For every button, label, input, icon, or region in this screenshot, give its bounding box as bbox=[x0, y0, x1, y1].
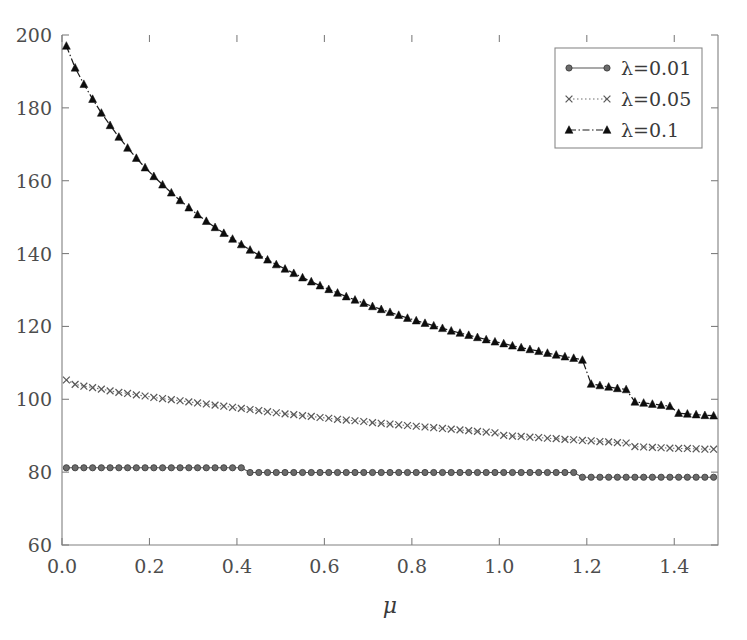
data-point-marker bbox=[474, 333, 482, 341]
data-point-marker bbox=[81, 465, 87, 471]
y-tick-label: 160 bbox=[16, 170, 52, 192]
data-point-marker bbox=[457, 469, 463, 475]
data-point-marker bbox=[107, 465, 113, 471]
data-point-marker bbox=[386, 308, 394, 316]
data-point-marker bbox=[255, 251, 263, 259]
data-point-marker bbox=[211, 223, 219, 231]
data-point-marker bbox=[431, 469, 437, 475]
data-point-marker bbox=[63, 377, 70, 384]
data-point-marker bbox=[307, 277, 315, 285]
data-point-marker bbox=[264, 469, 270, 475]
data-point-marker bbox=[518, 469, 524, 475]
data-point-marker bbox=[186, 465, 192, 471]
data-point-marker bbox=[185, 398, 192, 405]
data-point-marker bbox=[142, 393, 149, 400]
data-point-marker bbox=[185, 203, 193, 211]
data-point-marker bbox=[466, 469, 472, 475]
data-point-marker bbox=[395, 421, 402, 428]
data-point-marker bbox=[448, 469, 454, 475]
x-tick-label: 1.4 bbox=[659, 555, 689, 577]
data-point-marker bbox=[63, 465, 69, 471]
data-point-marker bbox=[632, 474, 638, 480]
data-point-marker bbox=[360, 418, 367, 425]
data-point-marker bbox=[588, 437, 595, 444]
data-point-marker bbox=[566, 65, 572, 71]
data-point-marker bbox=[125, 465, 131, 471]
data-point-marker bbox=[256, 469, 262, 475]
data-point-marker bbox=[579, 474, 585, 480]
x-tick-label: 0.2 bbox=[134, 555, 164, 577]
data-point-marker bbox=[527, 434, 534, 441]
y-tick-label: 120 bbox=[16, 315, 52, 337]
data-point-marker bbox=[308, 469, 314, 475]
data-point-marker bbox=[640, 399, 648, 407]
data-point-marker bbox=[606, 474, 612, 480]
data-point-marker bbox=[177, 465, 183, 471]
data-point-marker bbox=[317, 414, 324, 421]
data-point-marker bbox=[194, 210, 202, 218]
data-point-marker bbox=[220, 403, 227, 410]
data-point-marker bbox=[413, 469, 419, 475]
data-point-marker bbox=[536, 469, 542, 475]
legend-group: λ=0.01λ=0.05λ=0.1 bbox=[555, 48, 702, 148]
data-point-marker bbox=[571, 469, 577, 475]
data-point-marker bbox=[702, 474, 708, 480]
data-point-marker bbox=[97, 109, 105, 117]
x-tick-label: 0.0 bbox=[47, 555, 77, 577]
data-point-marker bbox=[623, 474, 629, 480]
data-point-marker bbox=[604, 65, 610, 71]
data-point-marker bbox=[116, 465, 122, 471]
data-point-marker bbox=[62, 42, 70, 50]
data-point-marker bbox=[527, 469, 533, 475]
data-point-marker bbox=[404, 469, 410, 475]
data-point-marker bbox=[352, 417, 359, 424]
y-tick-label: 140 bbox=[16, 243, 52, 265]
data-point-marker bbox=[492, 469, 498, 475]
chart-canvas: 60801001201401601802000.00.20.40.60.81.0… bbox=[0, 0, 747, 640]
data-point-marker bbox=[579, 437, 586, 444]
data-point-marker bbox=[483, 469, 489, 475]
data-point-marker bbox=[89, 95, 97, 103]
data-point-marker bbox=[667, 474, 673, 480]
data-point-marker bbox=[98, 386, 105, 393]
data-point-marker bbox=[229, 465, 235, 471]
data-point-marker bbox=[378, 469, 384, 475]
data-point-marker bbox=[395, 311, 403, 319]
data-point-marker bbox=[543, 349, 551, 357]
data-point-marker bbox=[404, 422, 411, 429]
data-point-marker bbox=[500, 339, 508, 347]
data-point-marker bbox=[517, 343, 525, 351]
data-point-marker bbox=[151, 465, 157, 471]
data-point-marker bbox=[220, 229, 228, 237]
data-point-marker bbox=[98, 465, 104, 471]
data-point-marker bbox=[658, 444, 665, 451]
data-point-marker bbox=[544, 435, 551, 442]
data-point-marker bbox=[675, 409, 683, 417]
data-point-marker bbox=[711, 474, 717, 480]
data-point-marker bbox=[666, 402, 674, 410]
x-tick-label: 1.0 bbox=[484, 555, 514, 577]
x-tick-label: 1.2 bbox=[572, 555, 602, 577]
data-point-marker bbox=[448, 426, 455, 433]
data-point-marker bbox=[246, 246, 254, 254]
data-point-marker bbox=[578, 356, 586, 364]
data-point-marker bbox=[80, 80, 88, 88]
data-point-marker bbox=[264, 408, 271, 415]
chart-figure: 60801001201401601802000.00.20.40.60.81.0… bbox=[0, 0, 747, 640]
data-point-marker bbox=[623, 440, 630, 447]
data-point-marker bbox=[421, 319, 429, 327]
data-point-marker bbox=[535, 434, 542, 441]
data-point-marker bbox=[229, 404, 236, 411]
data-point-marker bbox=[247, 469, 253, 475]
data-point-marker bbox=[325, 285, 333, 293]
data-point-marker bbox=[361, 469, 367, 475]
data-point-marker bbox=[369, 469, 375, 475]
data-point-marker bbox=[649, 474, 655, 480]
data-point-marker bbox=[237, 240, 245, 248]
legend-item-label: λ=0.01 bbox=[621, 57, 691, 79]
data-point-marker bbox=[447, 327, 455, 335]
data-point-marker bbox=[614, 474, 620, 480]
data-point-marker bbox=[168, 465, 174, 471]
data-point-marker bbox=[238, 465, 244, 471]
data-point-marker bbox=[588, 474, 594, 480]
